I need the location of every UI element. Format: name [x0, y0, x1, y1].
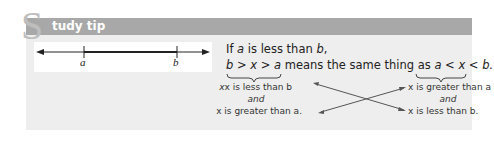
right-meaning-line-3: x is less than b. — [408, 106, 478, 116]
left-meaning-and: and — [236, 94, 276, 104]
left-meaning-line-3: x is greater than a. — [202, 106, 302, 116]
left-meaning-line-1: xx is less than b — [212, 82, 292, 92]
right-meaning-and: and — [428, 94, 468, 104]
study-tip-panel: S tudy tip a b If a is less than b, b > … — [26, 18, 472, 130]
right-meaning-line-1: x is greater than a — [408, 82, 491, 92]
